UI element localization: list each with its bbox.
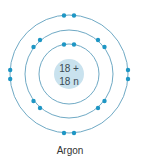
electron [72, 131, 76, 135]
nucleus-neutrons-label: 18 n [59, 76, 78, 87]
electron [62, 131, 66, 135]
atom-name-caption: Argon [0, 145, 140, 156]
electron [126, 77, 130, 81]
electron [38, 38, 42, 42]
electron [62, 13, 66, 17]
electron [62, 42, 66, 46]
electron [31, 99, 35, 103]
electron [31, 45, 35, 49]
nucleus-protons-label: 18 + [59, 63, 79, 74]
electron [38, 106, 42, 110]
electron [96, 38, 100, 42]
electron [8, 77, 12, 81]
electron [102, 99, 106, 103]
electron [72, 42, 76, 46]
electron [126, 68, 130, 72]
electron [102, 45, 106, 49]
electron [8, 68, 12, 72]
argon-bohr-diagram: 18 + 18 n [0, 0, 142, 159]
electron [72, 13, 76, 17]
electron [96, 106, 100, 110]
inner-shell-electrons [62, 42, 76, 46]
